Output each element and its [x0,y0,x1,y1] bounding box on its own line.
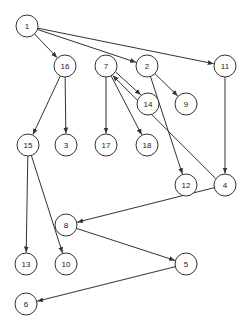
node-2: 2 [136,55,158,77]
edge-15-to-13 [26,156,28,253]
node-16: 16 [54,55,76,77]
edge-16-to-15 [33,76,60,135]
node-label: 9 [184,100,189,109]
edge-16-to-3 [65,77,66,134]
directed-graph: 116721114915317181248131056 [0,0,248,330]
edge-15-to-10 [31,155,62,253]
node-11: 11 [214,55,236,77]
edge-8-to-5 [76,228,175,260]
node-label: 4 [223,181,228,190]
edge-2-to-9 [155,74,178,96]
edge-2-to-12 [150,76,182,174]
node-label: 18 [143,141,152,150]
edge-arrow-line [150,76,182,174]
node-label: 17 [102,141,111,150]
edge-arrow-line [31,155,62,253]
node-14: 14 [137,93,159,115]
node-13: 13 [15,253,37,275]
edge-1-to-16 [35,34,58,58]
node-10: 10 [55,253,77,275]
edge-4-to-7 [113,76,216,179]
node-label: 5 [184,260,189,269]
edge-arrow-line [37,29,136,62]
node-label: 15 [24,141,33,150]
edge-1-to-2 [37,29,136,62]
edge-arrow-line [33,76,60,135]
node-15: 15 [17,134,39,156]
edge-arrow-line [155,74,178,96]
node-label: 12 [182,181,191,190]
node-label: 14 [144,100,153,109]
edge-arrow-line [65,77,66,134]
node-label: 16 [61,62,70,71]
node-9: 9 [175,93,197,115]
node-7: 7 [95,55,117,77]
node-17: 17 [95,134,117,156]
node-5: 5 [175,253,197,275]
edge-arrow-line [113,76,216,179]
node-8: 8 [55,214,77,236]
node-1: 1 [16,15,38,37]
node-label: 3 [64,141,69,150]
node-label: 2 [145,62,150,71]
node-12: 12 [175,174,197,196]
node-label: 7 [104,62,109,71]
node-label: 10 [62,260,71,269]
node-3: 3 [55,134,77,156]
edge-arrow-line [26,156,28,253]
node-6: 6 [15,293,37,315]
node-4: 4 [214,174,236,196]
node-label: 6 [24,300,29,309]
node-label: 1 [25,22,30,31]
edge-arrow-line [35,34,58,58]
node-label: 8 [64,221,69,230]
node-label: 13 [22,260,31,269]
node-label: 11 [221,62,230,71]
edge-arrow-line [76,228,175,260]
node-18: 18 [136,134,158,156]
